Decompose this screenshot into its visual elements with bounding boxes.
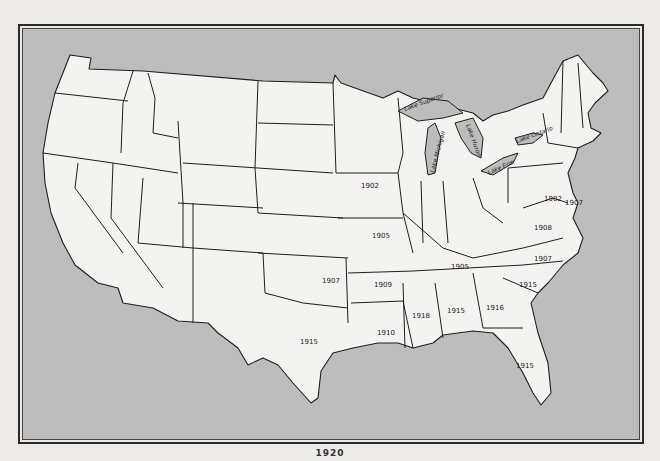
year-arkansas: 1909	[374, 281, 392, 289]
year-south-carolina: 1915	[519, 281, 537, 289]
map-water-background: Lake Superior Lake Michigan Lake Huron L…	[22, 28, 640, 440]
us-map: Lake Superior Lake Michigan Lake Huron L…	[22, 28, 640, 440]
map-caption: 1920	[0, 448, 660, 461]
year-tennessee: 1905	[451, 263, 469, 271]
year-maryland: 1902	[544, 195, 562, 203]
year-delaware: 1907	[565, 199, 583, 207]
year-oklahoma: 1907	[322, 277, 340, 285]
year-alabama: 1915	[447, 307, 465, 315]
map-frame: Lake Superior Lake Michigan Lake Huron L…	[18, 24, 644, 444]
year-mississippi: 1918	[412, 312, 430, 320]
year-north-carolina: 1907	[534, 255, 552, 263]
year-georgia: 1916	[486, 304, 504, 312]
year-iowa: 1902	[361, 182, 379, 190]
us-landmass	[43, 55, 608, 405]
year-texas: 1915	[300, 338, 318, 346]
year-missouri: 1905	[372, 232, 390, 240]
year-virginia: 1908	[534, 224, 552, 232]
year-louisiana: 1910	[377, 329, 395, 337]
year-florida: 1915	[516, 362, 534, 370]
